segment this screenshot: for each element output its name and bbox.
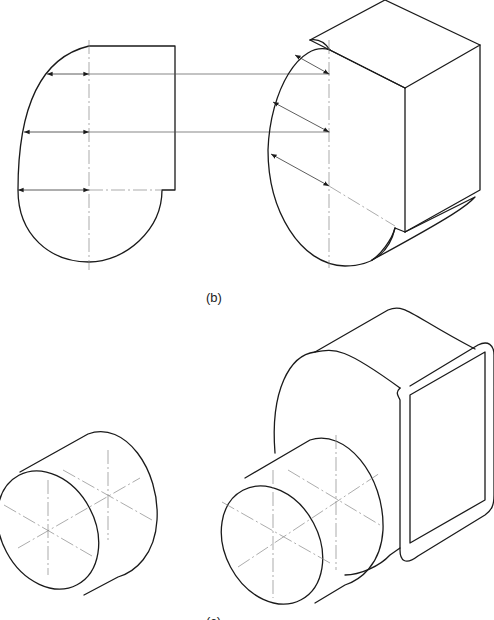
dimension-arrow [295, 55, 329, 74]
label-b: (b) [206, 290, 222, 305]
dimension-arrow [273, 102, 329, 132]
technical-drawing: (b) (c) [0, 0, 494, 620]
dimension-arrow [271, 154, 329, 186]
isometric-cylinder [0, 432, 157, 607]
orthographic-profile-view [18, 40, 330, 270]
isometric-duct-body-with-profile [268, 0, 480, 268]
isometric-assembled-duct [201, 308, 494, 620]
label-c: (c) [206, 614, 221, 620]
